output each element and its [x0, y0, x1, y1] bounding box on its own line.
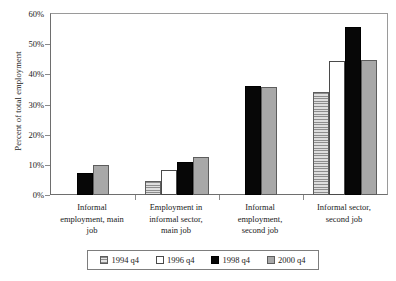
bar-1996-q4 — [329, 61, 345, 195]
bar-1994-q4 — [145, 181, 161, 195]
legend-label: 1994 q4 — [111, 256, 139, 265]
bar-group — [219, 14, 303, 195]
swatch-1996-icon — [156, 256, 164, 264]
bar-1998-q4 — [245, 86, 261, 195]
y-tick-label: 20% — [28, 131, 44, 139]
bar-1996-q4 — [161, 170, 177, 195]
x-axis-label: Informalemployment, mainjob — [50, 202, 134, 237]
bar-group — [135, 14, 219, 195]
bar-chart: Percent of total employment 0%10%20%30%4… — [0, 0, 396, 281]
bar-1998-q4 — [345, 27, 361, 195]
x-axis-label-line: Informal — [218, 202, 302, 214]
y-tick-label: 10% — [28, 161, 44, 169]
y-tick-label: 50% — [28, 40, 44, 48]
legend-label: 1998 q4 — [222, 256, 250, 265]
x-axis-label-line: main job — [134, 225, 218, 237]
bar-2000-q4 — [193, 157, 209, 195]
y-tick-label: 40% — [28, 70, 44, 78]
legend-item[interactable]: 1998 q4 — [211, 256, 250, 265]
bar-2000-q4 — [361, 60, 377, 195]
legend-item[interactable]: 1994 q4 — [100, 256, 139, 265]
swatch-1994-icon — [100, 256, 108, 264]
legend-item[interactable]: 2000 q4 — [267, 256, 306, 265]
x-axis-label: Informalemployment,second job — [218, 202, 302, 237]
bars-layer — [51, 14, 387, 195]
legend-item[interactable]: 1996 q4 — [156, 256, 195, 265]
x-axis-separator — [135, 195, 136, 200]
bar-group — [51, 14, 135, 195]
y-tick-label: 60% — [28, 10, 44, 18]
chart-legend: 1994 q41996 q41998 q42000 q4 — [87, 250, 319, 270]
swatch-1998-icon — [211, 256, 219, 264]
x-axis-labels: Informalemployment, mainjobEmployment in… — [50, 202, 388, 246]
x-axis-label-line: Informal — [50, 202, 134, 214]
x-axis-label-line: employment, — [218, 214, 302, 226]
legend-label: 2000 q4 — [278, 256, 306, 265]
x-axis-label-line: Employment in — [134, 202, 218, 214]
x-axis-label: Employment ininformal sector,main job — [134, 202, 218, 237]
y-tick-mark — [45, 195, 50, 196]
x-axis-label-line: Informal sector, — [302, 202, 386, 214]
x-axis-separator — [303, 195, 304, 200]
x-axis-label-line: employment, main — [50, 214, 134, 226]
bar-1998-q4 — [177, 162, 193, 195]
y-tick-label: 0% — [33, 191, 44, 199]
x-axis-label-line: job — [50, 225, 134, 237]
x-axis-label-line: second job — [302, 214, 386, 226]
bar-2000-q4 — [93, 165, 109, 195]
y-axis-ticks: 0%10%20%30%40%50%60% — [0, 0, 50, 196]
bar-group — [303, 14, 387, 195]
x-axis-label-line: informal sector, — [134, 214, 218, 226]
legend-label: 1996 q4 — [167, 256, 195, 265]
x-axis-label-line: second job — [218, 225, 302, 237]
bar-2000-q4 — [261, 87, 277, 195]
x-axis-separator — [219, 195, 220, 200]
bar-1994-q4 — [313, 92, 329, 195]
bar-1998-q4 — [77, 173, 93, 195]
swatch-2000-icon — [267, 256, 275, 264]
y-tick-label: 30% — [28, 101, 44, 109]
x-axis-label: Informal sector,second job — [302, 202, 386, 225]
